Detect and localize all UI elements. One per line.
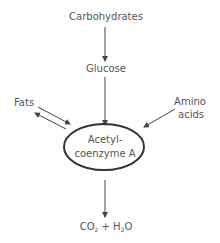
node-amino-line2: acids <box>178 109 204 121</box>
arrow-amino-acetylcoa <box>144 109 175 127</box>
product-plus-h: + H <box>98 221 120 232</box>
product-co: CO <box>80 221 95 232</box>
arrow-acetylcoa-fats <box>35 113 66 129</box>
arrow-fats-acetylcoa <box>38 107 70 124</box>
node-glucose: Glucose <box>86 63 126 75</box>
node-fats: Fats <box>14 97 34 109</box>
node-products: CO2 + H2O <box>80 221 133 236</box>
node-acetyl-line1: Acetyl- <box>88 134 123 146</box>
diagram-canvas <box>0 0 220 243</box>
acetyl-coa-ellipse <box>64 124 144 170</box>
node-amino-line1: Amino <box>174 96 206 108</box>
product-o: O <box>124 221 132 232</box>
node-carbohydrates: Carbohydrates <box>69 11 143 23</box>
node-acetyl-line2: coenzyme A <box>74 148 135 160</box>
